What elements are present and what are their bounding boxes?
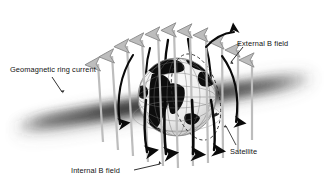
label-geomagnetic-ring-current: Geomagnetic ring current: [10, 65, 96, 74]
internal-field-line: [192, 100, 193, 154]
external-field-arrow: [112, 56, 118, 150]
external-field-arrow: [98, 64, 103, 142]
internal-field-line: [206, 32, 234, 47]
label-external-b-field: External B field: [237, 39, 288, 48]
leader-ring-current: [52, 77, 62, 92]
leader-internal: [134, 164, 160, 170]
label-satellite: Satellite: [230, 147, 257, 156]
leader-satellite: [226, 126, 236, 145]
figure-canvas: Geomagnetic ring current External B fiel…: [0, 0, 326, 186]
label-internal-b-field: Internal B field: [71, 166, 120, 175]
magnetosphere-illustration: [0, 0, 326, 186]
external-field-arrow: [222, 42, 223, 158]
